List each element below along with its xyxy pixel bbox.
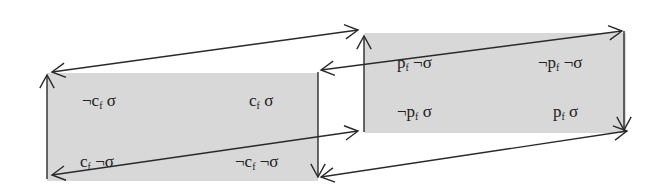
right-box-right-edge-down-arrow <box>617 31 631 130</box>
arrow-line <box>52 30 358 72</box>
diagram-canvas: ¬cf σ cf σ cf ¬σ ¬cf ¬σ pf ¬σ ¬pf ¬σ ¬pf… <box>0 0 664 194</box>
arrows-layer <box>0 0 664 194</box>
top-outer-diagonal-arrow <box>52 25 358 78</box>
arrow-line <box>321 131 627 177</box>
arrow-line <box>52 131 358 175</box>
bottom-outer-diagonal-arrow <box>321 126 627 182</box>
top-inner-diagonal-arrow <box>321 26 622 76</box>
arrow-line <box>321 31 622 70</box>
left-box-right-edge-down-arrow <box>311 72 325 177</box>
bottom-inner-diagonal-arrow <box>52 126 358 180</box>
right-box-left-edge-up-arrow <box>357 36 371 132</box>
left-box-left-edge-up-arrow <box>40 75 54 179</box>
